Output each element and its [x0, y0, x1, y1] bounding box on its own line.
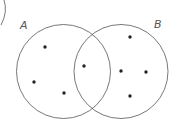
element-dot [32, 80, 35, 83]
venn-diagram: AB [0, 0, 177, 128]
element-dot [119, 69, 122, 72]
element-dot [144, 70, 147, 73]
element-dot [43, 45, 46, 48]
set-label-a: A [19, 19, 28, 32]
set-circle-a [17, 25, 111, 119]
element-dot [62, 91, 65, 94]
set-label-b: B [154, 18, 162, 31]
partial-circle-arc [1, 0, 5, 25]
element-dot [128, 94, 131, 97]
element-dot [128, 35, 131, 38]
element-dot [82, 64, 85, 67]
